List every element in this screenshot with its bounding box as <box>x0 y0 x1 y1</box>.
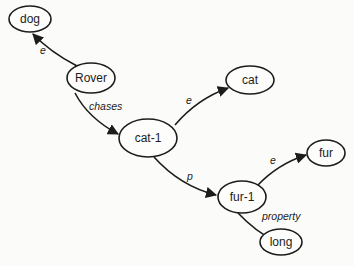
edge-label: e <box>270 154 276 166</box>
edge-rover-dog: e <box>33 34 77 66</box>
arrow-icon <box>258 155 306 185</box>
node-cat-1: cat-1 <box>119 119 177 157</box>
node-label: Rover <box>75 71 107 85</box>
node-label: cat-1 <box>135 131 162 145</box>
node-label: dog <box>20 12 40 26</box>
node-label: fur <box>319 146 333 160</box>
edge-label: chases <box>89 100 123 112</box>
edge-label: property <box>261 210 301 222</box>
edge-cat1-cat: e <box>175 88 228 125</box>
node-fur: fur <box>307 140 345 166</box>
edge-label: p <box>186 170 193 182</box>
node-cat: cat <box>226 66 274 94</box>
node-long: long <box>260 229 302 255</box>
node-dog: dog <box>9 6 51 32</box>
edge-label: e <box>186 94 192 106</box>
arrow-icon <box>175 88 228 125</box>
node-label: fur-1 <box>230 190 255 204</box>
arrow-icon <box>154 157 216 195</box>
node-label: cat <box>242 73 259 87</box>
node-rover: Rover <box>67 63 115 93</box>
node-label: long <box>270 235 293 249</box>
edge-rover-cat1: chases <box>75 93 123 134</box>
edge-label: e <box>40 44 46 56</box>
node-fur-1: fur-1 <box>218 181 266 213</box>
edge-fur1-fur: e <box>258 154 306 185</box>
edge-cat1-fur1: p <box>154 157 216 195</box>
semantic-network-diagram: e chases e p e property dog Rover cat ca… <box>0 0 354 266</box>
